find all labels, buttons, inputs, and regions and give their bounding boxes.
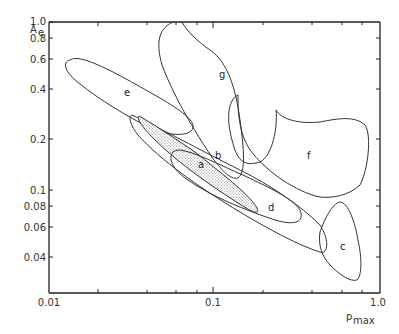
x-axis-label: p max	[346, 311, 375, 326]
svg-text:0.01: 0.01	[38, 297, 60, 308]
svg-text:0.08: 0.08	[24, 201, 46, 212]
svg-text:max: max	[353, 315, 375, 326]
svg-text:0.4: 0.4	[30, 84, 46, 95]
svg-text:0.2: 0.2	[30, 134, 46, 145]
svg-text:0.06: 0.06	[24, 222, 46, 233]
svg-text:0.6: 0.6	[30, 54, 46, 65]
svg-text:0.1: 0.1	[30, 185, 46, 196]
svg-text:0.04: 0.04	[24, 252, 46, 263]
svg-text:e: e	[38, 27, 44, 38]
svg-text:c: c	[340, 241, 346, 252]
svg-text:g: g	[219, 69, 225, 80]
y-tick-labels: 1.0 0.8 0.6 0.4 0.2 0.1 0.08 0.06 0.04	[24, 16, 46, 263]
x-tick-labels: 0.01 0.1 1.0	[38, 297, 386, 308]
svg-text:A: A	[30, 24, 37, 35]
svg-text:1.0: 1.0	[370, 297, 386, 308]
svg-text:a: a	[198, 159, 204, 170]
svg-text:0.1: 0.1	[205, 297, 221, 308]
svg-text:e: e	[124, 87, 130, 98]
region-f-contour	[229, 95, 369, 197]
contour-plot: 1.0 0.8 0.6 0.4 0.2 0.1 0.08 0.06 0.04 0…	[0, 0, 399, 334]
svg-text:d: d	[268, 202, 274, 213]
y-ticks	[49, 22, 380, 257]
svg-text:b: b	[215, 150, 221, 161]
svg-text:f: f	[307, 150, 311, 161]
svg-text:p: p	[346, 311, 352, 322]
